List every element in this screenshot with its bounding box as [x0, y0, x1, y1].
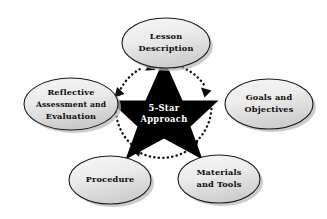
node-label-materials-and-tools-line2: and Tools — [197, 179, 242, 189]
node-label-reflective-line2: Assessment and — [35, 100, 107, 109]
node-lesson-description[interactable]: Lesson Description — [122, 18, 213, 71]
node-label-lesson-description-line2: Description — [138, 43, 193, 53]
node-label-procedure-line1: Procedure — [86, 174, 135, 184]
node-label-lesson-description-line1: Lesson — [150, 31, 183, 41]
diagram-canvas: 5-Star Approach Lesson Description Goals… — [0, 0, 327, 219]
node-procedure[interactable]: Procedure — [69, 156, 154, 207]
node-goals-and-objectives[interactable]: Goals and Objectives — [225, 79, 316, 132]
flow-arc-reflective-to-lesson — [119, 69, 140, 93]
node-label-goals-and-objectives-line2: Objectives — [245, 104, 294, 114]
five-star-approach-diagram: 5-Star Approach Lesson Description Goals… — [0, 0, 327, 219]
node-label-reflective-line1: Reflective — [47, 87, 94, 97]
node-label-reflective-line3: Evaluation — [46, 111, 96, 121]
node-label-materials-and-tools-line1: Materials — [196, 167, 241, 177]
node-materials-and-tools[interactable]: Materials and Tools — [178, 155, 263, 206]
flow-arrowhead-right-upper — [201, 88, 212, 98]
node-reflective-assessment-and-evaluation[interactable]: Reflective Assessment and Evaluation — [24, 78, 121, 133]
star-core: 5-Star Approach — [110, 59, 219, 160]
node-label-goals-and-objectives-line1: Goals and — [246, 92, 293, 102]
star-core-line1: 5-Star — [149, 103, 180, 113]
star-core-line2: Approach — [139, 114, 187, 124]
flow-arc-materials-to-procedure — [140, 152, 186, 158]
